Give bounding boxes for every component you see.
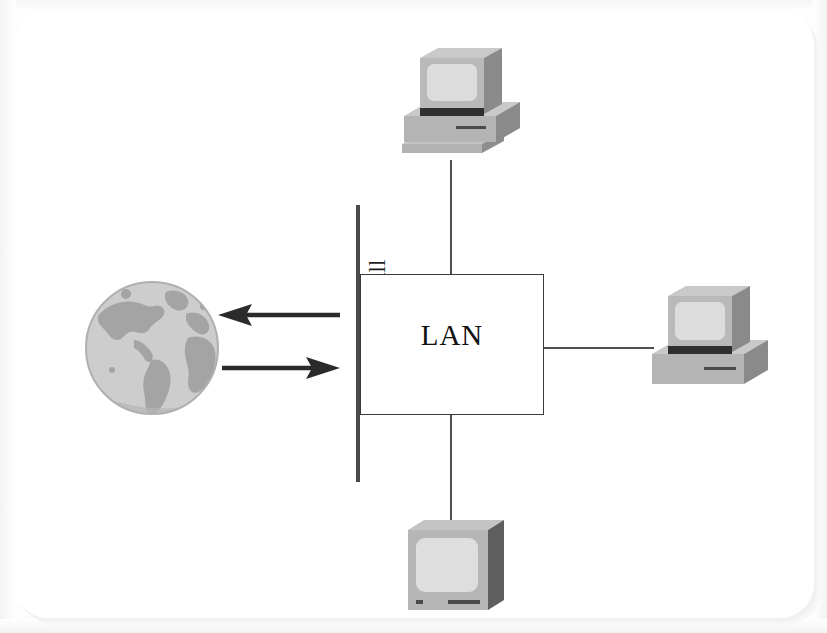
outbound-arrow [218, 304, 340, 326]
diagram-canvas: Firewall LAN [0, 0, 827, 633]
inbound-arrow [222, 357, 340, 379]
link-lan-to-right-workstation [543, 347, 654, 349]
desktop-computer-icon [398, 46, 530, 164]
desktop-computer-icon [648, 284, 772, 400]
link-lan-to-bottom-workstation [450, 414, 452, 520]
lan-label: LAN [360, 318, 544, 352]
globe-icon [82, 278, 222, 418]
link-lan-to-top-workstation [450, 160, 452, 275]
monitor-icon [400, 516, 522, 618]
diagram-page: Firewall LAN [0, 0, 827, 633]
